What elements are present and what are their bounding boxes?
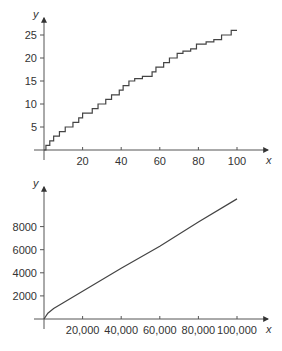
y-ticks: 510152025 [25, 29, 44, 133]
y-tick-label: 5 [31, 121, 37, 133]
y-tick-label: 4000 [13, 267, 37, 279]
curve-series-line [44, 199, 237, 319]
y-tick-label: 6000 [13, 244, 37, 256]
x-axis-label: x [265, 154, 272, 166]
x-tick-label: 80 [192, 155, 204, 167]
curve-chart: 20,00040,00060,00080,000100,000 20004000… [13, 177, 272, 336]
x-tick-label: 80,000 [182, 324, 216, 336]
y-tick-label: 8000 [13, 221, 37, 233]
step-series-line [44, 30, 237, 150]
y-tick-label: 10 [25, 98, 37, 110]
figure: 20406080100 510152025 x y 20,00040,00060… [0, 0, 282, 351]
x-tick-label: 60 [154, 155, 166, 167]
y-tick-label: 2000 [13, 290, 37, 302]
x-tick-label: 20,000 [66, 324, 100, 336]
x-tick-label: 40 [115, 155, 127, 167]
y-axis-label: y [32, 8, 40, 20]
y-ticks: 2000400060008000 [13, 221, 44, 302]
x-tick-label: 40,000 [104, 324, 138, 336]
x-tick-label: 60,000 [143, 324, 177, 336]
step-chart: 20406080100 510152025 x y [25, 8, 272, 167]
x-tick-label: 20 [76, 155, 88, 167]
x-tick-label: 100 [228, 155, 246, 167]
y-tick-label: 20 [25, 52, 37, 64]
x-tick-label: 100,000 [217, 324, 257, 336]
y-tick-label: 25 [25, 29, 37, 41]
y-axis-label: y [32, 177, 40, 189]
x-axis-label: x [265, 323, 272, 335]
y-tick-label: 15 [25, 75, 37, 87]
